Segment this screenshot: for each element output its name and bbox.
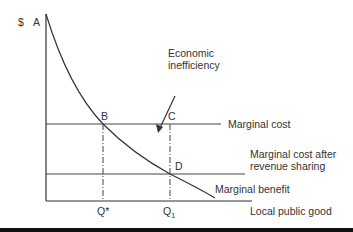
point-c-label: C bbox=[168, 110, 176, 122]
point-a-label: A bbox=[33, 16, 40, 28]
marginal-benefit-curve bbox=[46, 14, 215, 198]
annotation-line1: Economic bbox=[168, 47, 214, 59]
mc-after-sharing-label-line2: revenue sharing bbox=[250, 160, 325, 172]
inefficiency-arrow-head-icon bbox=[156, 124, 163, 133]
x-axis-label: Local public good bbox=[250, 205, 332, 217]
annotation-line2: inefficiency bbox=[168, 59, 221, 71]
economic-inefficiency-diagram: $ A B C D Economic inefficiency Marginal… bbox=[0, 0, 353, 232]
y-axis-label: $ bbox=[18, 16, 24, 28]
marginal-benefit-label: Marginal benefit bbox=[215, 183, 290, 195]
point-d-label: D bbox=[175, 160, 183, 172]
mc-after-sharing-label-line1: Marginal cost after bbox=[250, 148, 337, 160]
marginal-cost-label: Marginal cost bbox=[228, 118, 291, 130]
point-b-label: B bbox=[101, 110, 108, 122]
q1-label-base: Q bbox=[163, 205, 171, 217]
q-star-label: Q* bbox=[97, 205, 109, 217]
bottom-border bbox=[0, 228, 353, 232]
q1-label: Q1 bbox=[163, 205, 175, 220]
q1-label-subscript: 1 bbox=[171, 211, 175, 220]
